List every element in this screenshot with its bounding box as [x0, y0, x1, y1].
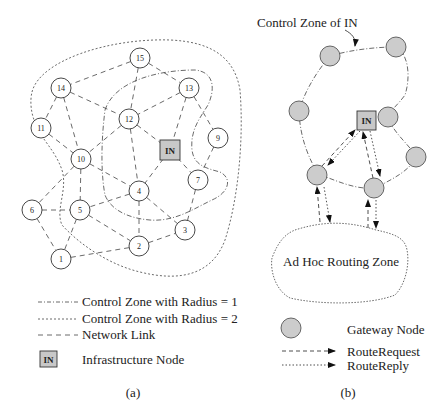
legend-network-link-label: Network Link — [82, 327, 156, 342]
node-label: 14 — [57, 84, 65, 93]
network-link-4-3 — [147, 197, 178, 223]
legend-route-request-label: RouteRequest — [347, 344, 420, 359]
node-label: 4 — [137, 187, 141, 196]
node-label: 6 — [30, 206, 34, 215]
node-label: 7 — [196, 176, 200, 185]
legend-infrastructure-node-label: Infrastructure Node — [82, 352, 184, 367]
network-link-15-13 — [149, 63, 181, 83]
network-node-2[interactable]: 2 — [129, 236, 149, 256]
nodes: 15141312119107465321 — [22, 48, 228, 269]
network-link-14-12 — [70, 92, 120, 115]
legend-b: Gateway Node RouteRequest RouteReply — [281, 318, 425, 373]
legend-gateway-label: Gateway Node — [347, 322, 425, 337]
node-label: 3 — [183, 226, 187, 235]
gateway-node[interactable] — [378, 107, 398, 127]
network-node-15[interactable]: 15 — [130, 48, 150, 68]
legend-gateway-icon — [281, 318, 301, 338]
network-link-5-2 — [89, 215, 131, 241]
node-label: 15 — [136, 54, 144, 63]
network-node-5[interactable]: 5 — [70, 200, 90, 220]
route-request-arrow — [322, 130, 355, 166]
network-link-IN-4 — [145, 159, 163, 183]
legend-in-box-label: IN — [43, 355, 54, 365]
network-link-7-3 — [188, 190, 196, 221]
node-label: 1 — [59, 255, 63, 264]
network-link-9-7 — [202, 147, 213, 171]
network-node-9[interactable]: 9 — [208, 128, 228, 148]
infrastructure-node-b[interactable]: IN — [357, 111, 376, 130]
diagram-canvas: 15141312119107465321 IN Control Zone wit… — [0, 0, 444, 415]
legend-route-reply-label: RouteReply — [347, 358, 410, 373]
network-link-12-10 — [89, 125, 122, 152]
node-label: 5 — [78, 206, 82, 215]
network-node-13[interactable]: 13 — [179, 78, 199, 98]
gateway-node[interactable] — [289, 101, 309, 121]
gateway-node[interactable] — [320, 46, 340, 66]
node-label: 13 — [185, 84, 193, 93]
node-label: 12 — [125, 115, 133, 124]
gateway-node[interactable] — [364, 178, 384, 198]
gateway-node[interactable] — [406, 147, 426, 167]
panel-b-caption: (b) — [340, 385, 355, 400]
network-node-11[interactable]: 11 — [31, 118, 51, 138]
network-link-2-3 — [148, 233, 175, 242]
node-label: 2 — [137, 242, 141, 251]
network-link-10-6 — [39, 166, 74, 203]
network-link-13-IN — [173, 98, 186, 140]
network-link-15-12 — [131, 68, 138, 109]
annotation-arrow — [345, 30, 355, 46]
network-link-10-5 — [80, 169, 81, 200]
network-link-11-10 — [49, 134, 73, 153]
network-link-5-1 — [65, 219, 77, 249]
infrastructure-node-b-label: IN — [361, 116, 372, 126]
node-label: 11 — [37, 124, 45, 133]
infrastructure-node[interactable]: IN — [160, 140, 180, 160]
network-node-3[interactable]: 3 — [175, 220, 195, 240]
network-link-6-1 — [37, 219, 56, 251]
network-link-12-IN — [137, 125, 161, 143]
network-node-12[interactable]: 12 — [119, 109, 139, 129]
node-label: 9 — [216, 134, 220, 143]
legend-a: Control Zone with Radius = 1 Control Zon… — [38, 294, 238, 367]
route-reply-arrow — [324, 187, 330, 222]
route-request-arrow — [317, 187, 320, 222]
legend-radius-1-label: Control Zone with Radius = 1 — [82, 294, 238, 309]
network-link-15-14 — [70, 62, 130, 85]
route-reply-arrow — [328, 131, 360, 165]
panel-a: 15141312119107465321 IN Control Zone wit… — [22, 40, 241, 400]
panel-b: Control Zone of IN IN — [257, 15, 426, 400]
network-node-10[interactable]: 10 — [71, 149, 91, 169]
network-link-13-12 — [138, 93, 180, 115]
network-link-4-5 — [90, 194, 130, 207]
network-link-14-11 — [45, 97, 56, 119]
legend-radius-2-label: Control Zone with Radius = 2 — [82, 311, 238, 326]
panel-a-caption: (a) — [126, 385, 140, 400]
gateway-node[interactable] — [386, 37, 406, 57]
infrastructure-node-label: IN — [165, 146, 176, 156]
network-link-14-10 — [64, 98, 79, 150]
network-node-14[interactable]: 14 — [51, 78, 71, 98]
network-node-6[interactable]: 6 — [22, 200, 42, 220]
gateway-node[interactable] — [307, 165, 327, 185]
network-link-12-4 — [130, 129, 137, 181]
ad-hoc-zone-label: Ad Hoc Routing Zone — [283, 254, 399, 269]
network-node-4[interactable]: 4 — [129, 181, 149, 201]
network-node-1[interactable]: 1 — [51, 249, 71, 269]
node-label: 10 — [77, 155, 85, 164]
control-zone-annotation: Control Zone of IN — [257, 15, 358, 30]
network-node-7[interactable]: 7 — [188, 170, 208, 190]
network-link-10-4 — [90, 164, 130, 186]
